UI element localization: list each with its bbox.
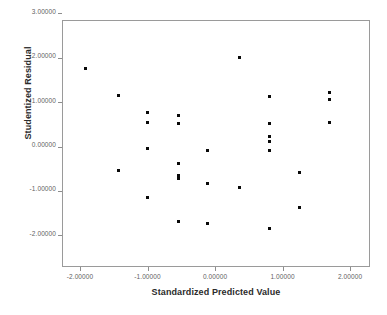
data-point: [177, 122, 180, 125]
data-point: [146, 111, 149, 114]
data-point: [268, 227, 271, 230]
data-point: [117, 169, 120, 172]
data-point: [117, 94, 120, 97]
x-tick-label: -1.00000: [134, 273, 160, 280]
x-tick-label: 2.00000: [338, 273, 362, 280]
data-point: [206, 222, 209, 225]
data-point: [206, 182, 209, 185]
data-point: [177, 114, 180, 117]
data-point: [238, 56, 241, 59]
data-point: [177, 174, 180, 177]
data-point: [268, 135, 271, 138]
y-tick-label: -1.00000: [30, 185, 56, 192]
data-point: [328, 91, 331, 94]
y-axis-tick: -2.00000: [0, 236, 62, 237]
y-tick-label: 2.00000: [32, 52, 56, 59]
x-tick-mark: [283, 267, 284, 271]
data-point: [268, 140, 271, 143]
data-point: [298, 206, 301, 209]
data-point: [268, 149, 271, 152]
data-point: [328, 121, 331, 124]
y-axis-tick: -1.00000: [0, 191, 62, 192]
y-tick-mark: [58, 13, 62, 14]
y-tick-label: 0.00000: [32, 141, 56, 148]
x-axis-title: Standardized Predicted Value: [62, 287, 370, 297]
data-point: [177, 220, 180, 223]
data-point: [84, 67, 87, 70]
x-tick-label: -2.00000: [67, 273, 93, 280]
data-point: [146, 121, 149, 124]
x-tick-label: 0.00000: [203, 273, 227, 280]
data-point: [298, 171, 301, 174]
data-point: [268, 122, 271, 125]
data-point: [146, 196, 149, 199]
x-tick-mark: [148, 267, 149, 271]
y-axis-title: Studentized Residual: [23, 13, 33, 173]
data-point: [238, 186, 241, 189]
data-point: [177, 162, 180, 165]
x-tick-mark: [215, 267, 216, 271]
x-tick-mark: [80, 267, 81, 271]
data-points-layer: [63, 21, 369, 266]
y-tick-label: -2.00000: [30, 230, 56, 237]
y-tick-label: 1.00000: [32, 97, 56, 104]
data-point: [268, 95, 271, 98]
data-point: [328, 98, 331, 101]
scatter-plot-screenshot: 3.000002.000001.000000.00000-1.00000-2.0…: [0, 0, 387, 315]
data-point: [206, 149, 209, 152]
y-tick-label: 3.00000: [32, 8, 56, 15]
data-point: [177, 177, 180, 180]
plot-area: [62, 20, 370, 267]
x-tick-label: 1.00000: [270, 273, 294, 280]
x-tick-mark: [350, 267, 351, 271]
data-point: [146, 147, 149, 150]
